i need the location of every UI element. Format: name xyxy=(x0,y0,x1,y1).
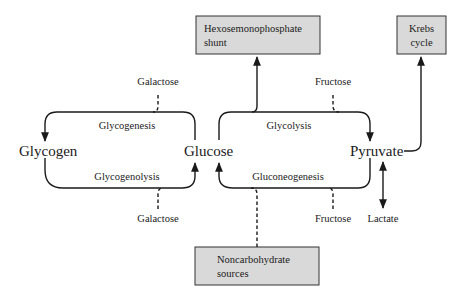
noncarb-label-2: sources xyxy=(217,268,249,279)
hmp-label-2: shunt xyxy=(204,37,227,48)
krebs-cycle-box: Krebs cycle xyxy=(397,16,446,54)
galactose-top-label: Galactose xyxy=(137,76,179,87)
pyruvate-node: Pyruvate xyxy=(350,143,404,159)
glycolysis-label: Glycolysis xyxy=(267,120,312,131)
glucose-to-hmp-arrow xyxy=(252,57,257,112)
galactose-top-input xyxy=(153,95,158,112)
metabolic-pathway-diagram: Hexosemonophosphate shunt Krebs cycle No… xyxy=(0,0,464,300)
krebs-label-2: cycle xyxy=(410,37,432,48)
fructose-top-input xyxy=(333,95,339,112)
fructose-bottom-label: Fructose xyxy=(315,213,352,224)
noncarbohydrate-input xyxy=(251,188,257,247)
glycogenesis-label: Glycogenesis xyxy=(99,120,156,131)
galactose-bottom-input xyxy=(158,188,163,209)
hexosemonophosphate-shunt-box: Hexosemonophosphate shunt xyxy=(196,16,320,54)
pyruvate-to-krebs-arrow xyxy=(404,57,421,151)
hmp-label-1: Hexosemonophosphate xyxy=(204,23,302,34)
glycogenolysis-label: Glycogenolysis xyxy=(94,171,159,182)
fructose-bottom-input xyxy=(328,188,333,209)
lactate-node: Lactate xyxy=(368,213,399,224)
glycogen-node: Glycogen xyxy=(19,143,78,159)
fructose-top-label: Fructose xyxy=(315,76,352,87)
galactose-bottom-label: Galactose xyxy=(137,213,179,224)
gluconeogenesis-label: Gluconeogenesis xyxy=(252,171,324,182)
glucose-node: Glucose xyxy=(184,143,233,159)
noncarbohydrate-sources-box: Noncarbohydrate sources xyxy=(195,247,319,285)
krebs-label-1: Krebs xyxy=(409,23,434,34)
noncarb-label-1: Noncarbohydrate xyxy=(217,254,290,265)
